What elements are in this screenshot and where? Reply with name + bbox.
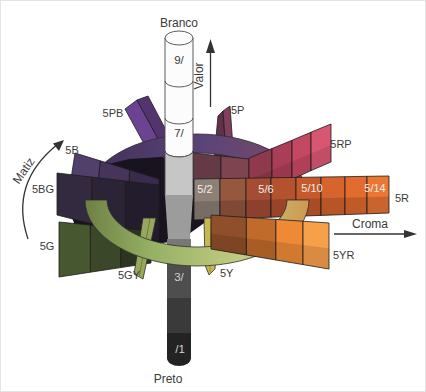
value-axis-arrow [206,39,215,107]
arrow-head [53,140,64,151]
arrow-head [404,230,417,238]
munsell-color-solid-figure: 5/2 5/6 5/10 5/14 Branc [0,0,426,392]
hue-label-5r: 5R [395,192,409,204]
hue-label-5b: 5B [65,144,78,156]
shaft-taper [165,195,193,239]
chroma-label-6: 5/6 [258,183,273,195]
munsell-diagram: 5/2 5/6 5/10 5/14 Branc [1,1,426,392]
white-pole-label: Branco [160,16,198,30]
hue-cell [57,173,92,224]
cylinder-top [165,31,193,45]
chroma-axis-arrow [334,230,417,238]
hue-label-5rp: 5RP [330,138,351,150]
value-axis-label: Valor [192,62,206,89]
value-label-3: 3/ [174,271,184,283]
shaft-segment [167,298,191,333]
hue-label-5p: 5P [231,104,244,116]
hue-label-5pb: 5PB [103,107,124,119]
arrow-head [206,39,215,53]
hue-label-5bg: 5BG [32,183,54,195]
chroma-label-14: 5/14 [364,182,385,194]
value-label-7: 7/ [174,127,184,139]
chroma-label-10: 5/10 [301,182,322,194]
black-pole-label: Preto [154,372,183,386]
chroma-axis-label: Croma [352,217,388,231]
chroma-label-2: 5/2 [197,183,212,195]
value-label-1: /1 [175,343,185,355]
hue-cell [59,222,90,277]
hue-label-5yr: 5YR [333,249,354,261]
value-label-9: 9/ [174,54,184,66]
hue-label-5g: 5G [40,240,55,252]
hue-label-5y: 5Y [220,267,234,279]
cylinder-value5-section [165,151,193,201]
hue-label-5gy: 5GY [118,269,141,281]
